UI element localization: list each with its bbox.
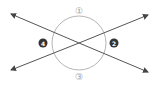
- line-bottomleft-topright: [11, 43, 79, 70]
- angle-label-3: ③: [75, 72, 83, 82]
- intersecting-lines-diagram: ① ③ 2 4: [0, 0, 161, 86]
- angle-label-4: 4: [39, 39, 48, 48]
- svg-text:4: 4: [41, 40, 45, 47]
- angle-label-1: ①: [75, 6, 83, 16]
- angle-label-2: 2: [110, 39, 119, 48]
- svg-text:2: 2: [112, 40, 116, 47]
